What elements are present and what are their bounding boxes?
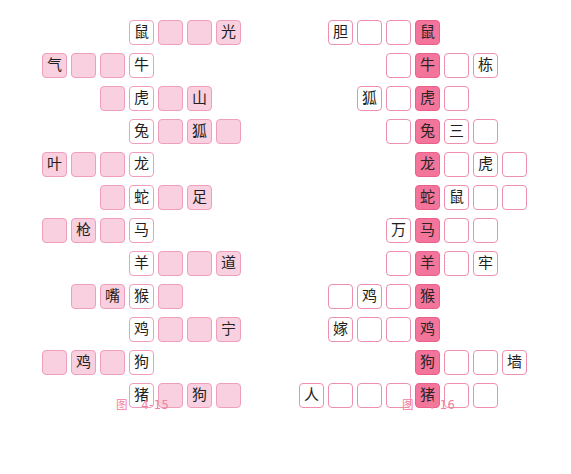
animal-cell: 马	[415, 218, 440, 243]
clue-cell: 嘴	[100, 284, 125, 309]
animal-cell: 狗	[129, 350, 154, 375]
empty-cell[interactable]	[502, 152, 527, 177]
clue-cell: 鸡	[71, 350, 96, 375]
empty-cell[interactable]	[386, 119, 411, 144]
figure-caption-number-right: 4-16	[427, 398, 455, 412]
empty-cell[interactable]	[158, 317, 183, 342]
empty-cell[interactable]	[328, 284, 353, 309]
empty-cell[interactable]	[42, 218, 67, 243]
clue-cell: 气	[42, 53, 67, 78]
clue-cell: 狐	[187, 119, 212, 144]
empty-cell[interactable]	[444, 350, 469, 375]
figure-caption-number-left: 4-15	[141, 398, 169, 412]
empty-cell[interactable]	[473, 218, 498, 243]
animal-cell: 牛	[415, 53, 440, 78]
clue-cell: 万	[386, 218, 411, 243]
animal-cell: 虎	[129, 86, 154, 111]
animal-cell: 鸡	[415, 317, 440, 342]
empty-cell[interactable]	[100, 350, 125, 375]
worksheet-page: 鼠光气牛虎山兔狐叶龙蛇足枪马羊道嘴猴鸡宁鸡狗猪狗 图4-15 胆鼠牛栋狐虎兔三龙…	[0, 0, 571, 474]
empty-cell[interactable]	[100, 185, 125, 210]
empty-cell[interactable]	[187, 317, 212, 342]
empty-cell[interactable]	[158, 251, 183, 276]
animal-cell: 蛇	[129, 185, 154, 210]
empty-cell[interactable]	[100, 53, 125, 78]
empty-cell[interactable]	[386, 317, 411, 342]
empty-cell[interactable]	[357, 317, 382, 342]
clue-cell: 枪	[71, 218, 96, 243]
empty-cell[interactable]	[100, 152, 125, 177]
empty-cell[interactable]	[502, 185, 527, 210]
figure-panel-4-15: 鼠光气牛虎山兔狐叶龙蛇足枪马羊道嘴猴鸡宁鸡狗猪狗 图4-15	[0, 12, 285, 422]
animal-cell: 鼠	[129, 20, 154, 45]
empty-cell[interactable]	[357, 20, 382, 45]
empty-cell[interactable]	[444, 251, 469, 276]
clue-cell: 墙	[502, 350, 527, 375]
empty-cell[interactable]	[444, 218, 469, 243]
animal-cell: 马	[129, 218, 154, 243]
clue-cell: 鸡	[357, 284, 382, 309]
animal-cell: 狗	[415, 350, 440, 375]
figure-caption-word-right: 图	[402, 398, 414, 412]
empty-cell[interactable]	[158, 86, 183, 111]
empty-cell[interactable]	[158, 185, 183, 210]
empty-cell[interactable]	[473, 350, 498, 375]
empty-cell[interactable]	[386, 53, 411, 78]
crossword-grid-4-15[interactable]: 鼠光气牛虎山兔狐叶龙蛇足枪马羊道嘴猴鸡宁鸡狗猪狗	[0, 12, 285, 422]
clue-cell: 鼠	[444, 185, 469, 210]
animal-cell: 虎	[415, 86, 440, 111]
clue-cell: 三	[444, 119, 469, 144]
animal-cell: 蛇	[415, 185, 440, 210]
empty-cell[interactable]	[71, 53, 96, 78]
empty-cell[interactable]	[187, 251, 212, 276]
empty-cell[interactable]	[386, 284, 411, 309]
empty-cell[interactable]	[42, 350, 67, 375]
animal-cell: 兔	[129, 119, 154, 144]
clue-cell: 胆	[328, 20, 353, 45]
clue-cell: 嫁	[328, 317, 353, 342]
animal-cell: 猴	[129, 284, 154, 309]
empty-cell[interactable]	[71, 152, 96, 177]
animal-cell: 牛	[129, 53, 154, 78]
animal-cell: 羊	[415, 251, 440, 276]
animal-cell: 龙	[415, 152, 440, 177]
clue-cell: 狐	[357, 86, 382, 111]
clue-cell: 虎	[473, 152, 498, 177]
figure-caption-word-left: 图	[116, 398, 128, 412]
clue-cell: 山	[187, 86, 212, 111]
clue-cell: 光	[216, 20, 241, 45]
animal-cell: 猴	[415, 284, 440, 309]
clue-cell: 栋	[473, 53, 498, 78]
empty-cell[interactable]	[100, 218, 125, 243]
clue-cell: 牢	[473, 251, 498, 276]
empty-cell[interactable]	[444, 152, 469, 177]
figure-caption-4-16: 图4-16	[286, 396, 571, 412]
clue-cell: 足	[187, 185, 212, 210]
figure-caption-4-15: 图4-15	[0, 396, 285, 412]
empty-cell[interactable]	[473, 119, 498, 144]
crossword-grid-4-16[interactable]: 胆鼠牛栋狐虎兔三龙虎蛇鼠万马羊牢鸡猴嫁鸡狗墙人猪	[286, 12, 571, 422]
empty-cell[interactable]	[386, 251, 411, 276]
empty-cell[interactable]	[158, 20, 183, 45]
empty-cell[interactable]	[216, 119, 241, 144]
figure-panel-4-16: 胆鼠牛栋狐虎兔三龙虎蛇鼠万马羊牢鸡猴嫁鸡狗墙人猪 图4-16	[286, 12, 571, 422]
cut-off-header-text	[0, 0, 571, 9]
empty-cell[interactable]	[473, 185, 498, 210]
empty-cell[interactable]	[158, 284, 183, 309]
empty-cell[interactable]	[158, 119, 183, 144]
empty-cell[interactable]	[71, 284, 96, 309]
animal-cell: 鸡	[129, 317, 154, 342]
clue-cell: 宁	[216, 317, 241, 342]
animal-cell: 龙	[129, 152, 154, 177]
empty-cell[interactable]	[100, 86, 125, 111]
animal-cell: 羊	[129, 251, 154, 276]
empty-cell[interactable]	[386, 86, 411, 111]
clue-cell: 道	[216, 251, 241, 276]
clue-cell: 叶	[42, 152, 67, 177]
animal-cell: 兔	[415, 119, 440, 144]
empty-cell[interactable]	[386, 20, 411, 45]
empty-cell[interactable]	[187, 20, 212, 45]
empty-cell[interactable]	[444, 53, 469, 78]
empty-cell[interactable]	[444, 86, 469, 111]
animal-cell: 鼠	[415, 20, 440, 45]
